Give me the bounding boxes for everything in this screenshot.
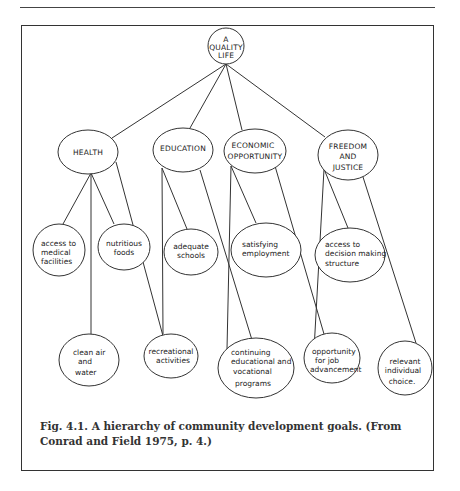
label-choice-3: choice.	[389, 377, 416, 386]
caption-line-1: Fig. 4.1. A hierarchy of community devel…	[40, 419, 430, 434]
hierarchy-diagram: A QUALITY LIFE HEALTH EDUCATION ECONOMIC…	[0, 0, 460, 491]
label-job-1: opportunity	[312, 347, 356, 356]
label-job-2: for job	[315, 356, 339, 365]
label-freedom-2: AND	[339, 152, 356, 161]
label-freedom-3: JUSTICE	[332, 163, 364, 172]
label-education: EDUCATION	[160, 144, 206, 153]
label-economic-2: OPPORTUNITY	[228, 152, 283, 161]
figure-caption: Fig. 4.1. A hierarchy of community devel…	[40, 419, 430, 449]
label-decision-2: decision making	[325, 249, 386, 258]
caption-line-2: Conrad and Field 1975, p. 4.)	[40, 434, 430, 449]
label-freedom-1: FREEDOM	[329, 142, 368, 151]
label-recreational-2: activities	[156, 356, 190, 365]
label-medical-1: access to	[41, 239, 77, 248]
node-economic-opportunity	[224, 129, 286, 173]
node-shapes	[33, 28, 432, 398]
label-health: HEALTH	[73, 148, 103, 157]
label-employment-1: satisfying	[242, 240, 278, 249]
label-clean-air-2: and	[78, 357, 92, 366]
label-recreational-1: recreational	[149, 347, 194, 356]
label-continuing-4: programs	[235, 379, 271, 388]
label-clean-air-3: water	[75, 368, 97, 377]
label-continuing-1: continuing	[231, 348, 271, 357]
label-choice-1: relevant	[390, 357, 421, 366]
label-nutritious-2: foods	[114, 248, 135, 257]
label-clean-air-1: clean air	[73, 348, 106, 357]
label-decision-1: access to	[325, 240, 361, 249]
label-schools-2: schools	[177, 251, 205, 260]
label-medical-3: facilities	[41, 257, 72, 266]
label-continuing-3: vocational	[233, 367, 272, 376]
label-medical-2: medical	[41, 248, 71, 257]
connector-lines	[63, 64, 416, 350]
label-schools-1: adequate	[173, 242, 209, 251]
label-quality-life-3: LIFE	[218, 51, 234, 60]
label-employment-2: employment	[242, 249, 289, 258]
label-decision-3: structure	[325, 259, 359, 268]
label-job-3: advancement	[310, 365, 362, 374]
label-nutritious-1: nutritious	[106, 239, 142, 248]
label-choice-2: individual	[385, 366, 421, 375]
label-economic-1: ECONOMIC	[232, 141, 275, 150]
label-continuing-2: educational and	[231, 357, 292, 366]
